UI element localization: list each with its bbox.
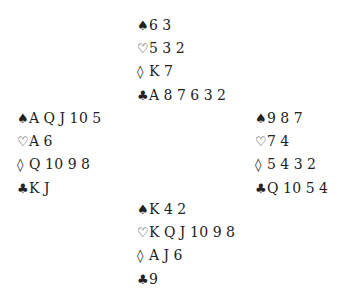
south-diamonds: ◊A J 6 (137, 244, 235, 267)
west-clubs: ♣K J (17, 177, 102, 200)
spade-icon: ♠ (137, 198, 149, 221)
heart-icon: ♡ (255, 130, 267, 153)
diamond-icon: ◊ (137, 244, 149, 267)
cards: 5 3 2 (149, 40, 185, 56)
east-diamonds: ◊5 4 3 2 (255, 153, 328, 176)
east-hearts: ♡7 4 (255, 130, 328, 153)
cards: K 7 (149, 63, 173, 79)
club-icon: ♣ (137, 268, 149, 291)
cards: 9 (149, 271, 158, 287)
cards: A 8 7 6 3 2 (149, 87, 226, 103)
north-diamonds: ◊K 7 (137, 60, 226, 83)
cards: K Q J 10 9 8 (149, 224, 235, 240)
club-icon: ♣ (17, 177, 29, 200)
diamond-icon: ◊ (17, 153, 29, 176)
west-hand: ♠A Q J 10 5 ♡A 6 ◊Q 10 9 8 ♣K J (17, 107, 102, 200)
south-hearts: ♡K Q J 10 9 8 (137, 221, 235, 244)
cards: A 6 (29, 133, 53, 149)
south-spades: ♠K 4 2 (137, 198, 235, 221)
north-hand: ♠6 3 ♡5 3 2 ◊K 7 ♣A 8 7 6 3 2 (137, 14, 226, 107)
cards: Q 10 5 4 (267, 180, 328, 196)
cards: Q 10 9 8 (29, 156, 90, 172)
cards: K J (29, 180, 50, 196)
club-icon: ♣ (255, 177, 267, 200)
heart-icon: ♡ (137, 221, 149, 244)
heart-icon: ♡ (17, 130, 29, 153)
east-spades: ♠9 8 7 (255, 107, 328, 130)
cards: 6 3 (149, 17, 172, 33)
cards: 5 4 3 2 (267, 156, 316, 172)
north-hearts: ♡5 3 2 (137, 37, 226, 60)
west-diamonds: ◊Q 10 9 8 (17, 153, 102, 176)
cards: A Q J 10 5 (29, 110, 102, 126)
cards: A J 6 (149, 247, 183, 263)
cards: 7 4 (267, 133, 290, 149)
south-clubs: ♣9 (137, 268, 235, 291)
west-spades: ♠A Q J 10 5 (17, 107, 102, 130)
cards: 9 8 7 (267, 110, 303, 126)
spade-icon: ♠ (137, 14, 149, 37)
cards: K 4 2 (149, 201, 187, 217)
north-clubs: ♣A 8 7 6 3 2 (137, 84, 226, 107)
diamond-icon: ◊ (137, 60, 149, 83)
spade-icon: ♠ (255, 107, 267, 130)
east-clubs: ♣Q 10 5 4 (255, 177, 328, 200)
east-hand: ♠9 8 7 ♡7 4 ◊5 4 3 2 ♣Q 10 5 4 (255, 107, 328, 200)
club-icon: ♣ (137, 84, 149, 107)
spade-icon: ♠ (17, 107, 29, 130)
west-hearts: ♡A 6 (17, 130, 102, 153)
north-spades: ♠6 3 (137, 14, 226, 37)
diamond-icon: ◊ (255, 153, 267, 176)
south-hand: ♠K 4 2 ♡K Q J 10 9 8 ◊A J 6 ♣9 (137, 198, 235, 291)
heart-icon: ♡ (137, 37, 149, 60)
